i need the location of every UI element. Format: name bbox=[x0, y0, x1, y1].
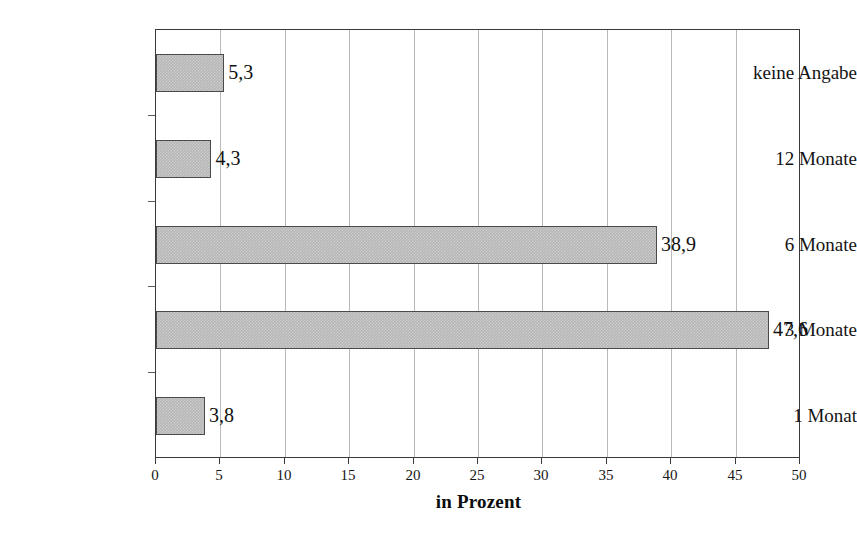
plot-area bbox=[155, 29, 800, 458]
category-label: keine Angabe bbox=[709, 63, 857, 82]
x-axis-title: in Prozent bbox=[0, 491, 857, 513]
value-axis-tick bbox=[413, 458, 414, 464]
bar-band bbox=[156, 397, 799, 435]
value-axis-tick-label: 35 bbox=[599, 468, 614, 483]
value-axis-tick bbox=[606, 458, 607, 464]
value-axis-tick bbox=[541, 458, 542, 464]
bar-chart: keine Angabe12 Monate6 Monate3 Monate1 M… bbox=[0, 0, 857, 537]
value-axis-tick-label: 25 bbox=[470, 468, 485, 483]
value-axis-tick-label: 30 bbox=[534, 468, 549, 483]
bar-value-label: 4,3 bbox=[215, 148, 240, 168]
x-axis-title-text: in Prozent bbox=[436, 491, 522, 512]
value-axis-tick bbox=[670, 458, 671, 464]
bar-value-label: 5,3 bbox=[228, 62, 253, 82]
bar[interactable] bbox=[156, 397, 205, 435]
value-axis-tick-label: 50 bbox=[792, 468, 807, 483]
bar-value-label: 47,6 bbox=[773, 319, 808, 339]
bar-value-label: 3,8 bbox=[209, 405, 234, 425]
value-axis-tick-label: 0 bbox=[151, 468, 159, 483]
value-axis-tick bbox=[477, 458, 478, 464]
value-axis-tick bbox=[155, 458, 156, 464]
category-axis-tick bbox=[148, 201, 155, 202]
value-axis-tick bbox=[735, 458, 736, 464]
bar[interactable] bbox=[156, 311, 769, 349]
bar-band bbox=[156, 311, 799, 349]
category-axis-tick bbox=[148, 115, 155, 116]
value-axis-tick-label: 10 bbox=[277, 468, 292, 483]
value-axis-tick bbox=[219, 458, 220, 464]
value-axis-tick bbox=[348, 458, 349, 464]
value-axis-tick-label: 5 bbox=[215, 468, 223, 483]
category-axis-tick bbox=[148, 286, 155, 287]
bar-band bbox=[156, 140, 799, 178]
bar-value-label: 38,9 bbox=[661, 234, 696, 254]
bar[interactable] bbox=[156, 54, 224, 92]
value-axis-tick-label: 20 bbox=[406, 468, 421, 483]
value-axis-tick bbox=[284, 458, 285, 464]
category-label: 1 Monat bbox=[709, 406, 857, 425]
category-axis-tick bbox=[148, 372, 155, 373]
category-label: 12 Monate bbox=[709, 149, 857, 168]
value-axis-tick-label: 40 bbox=[663, 468, 678, 483]
bar-band bbox=[156, 226, 799, 264]
bar[interactable] bbox=[156, 226, 657, 264]
value-axis-tick-label: 15 bbox=[341, 468, 356, 483]
value-axis-tick-label: 45 bbox=[728, 468, 743, 483]
bar[interactable] bbox=[156, 140, 211, 178]
value-axis-tick bbox=[799, 458, 800, 464]
category-label: 6 Monate bbox=[709, 235, 857, 254]
